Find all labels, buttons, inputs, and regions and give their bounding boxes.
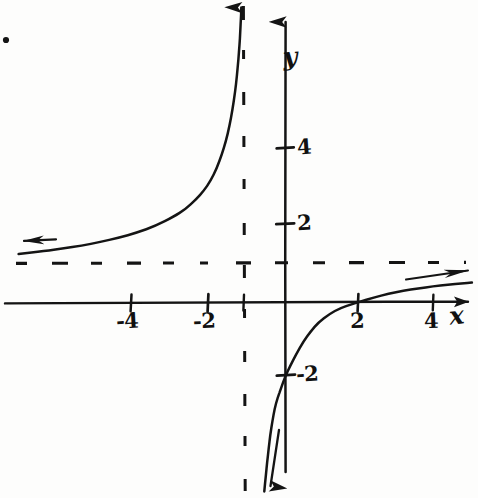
stray-ink-dot (3, 37, 9, 43)
y-tick-label-minus-2: -2 (295, 362, 318, 384)
y-axis (276, 22, 295, 472)
x-axis-label: x (448, 302, 465, 328)
x-axis (5, 294, 468, 312)
x-tick-label-minus-2: -2 (193, 310, 216, 332)
handwritten-graph-image: -4 -2 2 4 4 2 -2 y x (0, 0, 478, 498)
x-tick-label-4: 4 (424, 310, 439, 331)
horizontal-asymptote-y-equals-1 (16, 262, 466, 263)
x-tick-label-minus-4: -4 (115, 309, 138, 331)
graph-ink-layer (0, 0, 478, 498)
x-tick-label-2: 2 (350, 310, 364, 331)
curve-left-branch (19, 8, 242, 254)
vertical-asymptote-x-equals-minus-1 (243, 6, 245, 492)
y-axis-label: y (282, 44, 298, 70)
y-tick-label-2: 2 (296, 212, 311, 234)
y-tick-label-4: 4 (296, 136, 312, 158)
